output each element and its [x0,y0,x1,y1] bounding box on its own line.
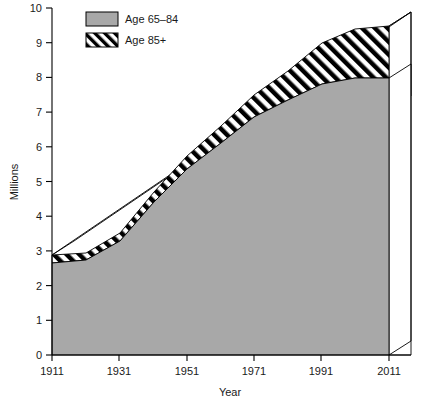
x-tick-label: 1911 [40,365,64,377]
chart-container: 0 1 2 3 4 5 6 7 8 9 10 1911 1931 1951 19… [0,0,443,404]
x-axis-ticks [52,355,389,361]
y-tick-label: 1 [36,314,42,326]
y-tick-label: 10 [30,2,42,14]
legend-swatch-diagonal-hatch [86,33,118,47]
x-tick-label: 1971 [242,365,266,377]
y-axis-title: Millions [8,163,20,200]
y-axis-tick-labels: 0 1 2 3 4 5 6 7 8 9 10 [30,2,42,361]
legend-item-age-65-84[interactable]: Age 65–84 [86,12,178,26]
x-axis-tick-labels: 1911 1931 1951 1971 1991 2011 [40,365,401,377]
area-chart-svg: 0 1 2 3 4 5 6 7 8 9 10 1911 1931 1951 19… [0,0,443,404]
y-tick-label: 2 [36,280,42,292]
x-tick-label: 1951 [175,365,199,377]
y-tick-label: 0 [36,349,42,361]
y-tick-label: 3 [36,245,42,257]
depth-face-right-lower [389,64,411,355]
legend-swatch-solid-gray [86,12,118,26]
y-axis-ticks [46,8,52,355]
x-axis-title: Year [219,386,242,398]
y-tick-label: 8 [36,71,42,83]
y-tick-label: 4 [36,210,42,222]
x-tick-label: 1991 [309,365,333,377]
legend-label-age-65-84: Age 65–84 [125,13,178,25]
x-tick-label: 2011 [377,365,401,377]
legend-label-age-85-plus: Age 85+ [125,34,166,46]
y-tick-label: 7 [36,106,42,118]
series-areas [52,26,389,355]
x-tick-label: 1931 [107,365,131,377]
y-tick-label: 6 [36,141,42,153]
area-age-65-84 [52,78,389,355]
y-tick-label: 5 [36,176,42,188]
chart-legend: Age 65–84 Age 85+ [86,12,178,47]
legend-item-age-85-plus[interactable]: Age 85+ [86,33,166,47]
y-tick-label: 9 [36,37,42,49]
